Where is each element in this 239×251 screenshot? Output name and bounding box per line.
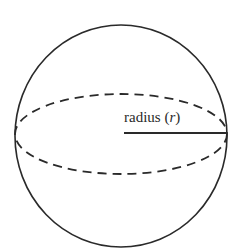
radius-label-close: ) xyxy=(175,109,180,125)
sphere-graphic xyxy=(0,0,239,251)
radius-label: radius (r) xyxy=(124,109,180,126)
radius-label-text: radius ( xyxy=(124,109,169,125)
sphere-outline xyxy=(15,25,227,247)
